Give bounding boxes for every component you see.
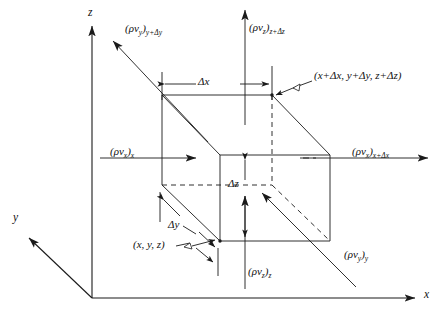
arrow-flux-y [262, 193, 356, 287]
label-flux-y: (ρvy)y [344, 249, 368, 260]
axis-y [29, 238, 92, 298]
label-delta-y: Δy [168, 219, 179, 230]
dim-delta-y [160, 192, 218, 276]
label-delta-z: Δz [228, 178, 239, 189]
label-flux-x: (ρvx)x [110, 146, 134, 157]
label-corner-far: (x+Δx, y+Δy, z+Δz) [314, 70, 401, 81]
cube-front-face [220, 155, 330, 241]
label-flux-z: (ρvz)z [248, 266, 271, 277]
cube-depth-edges [162, 95, 330, 241]
cube-back-face [162, 95, 272, 185]
leader-delta-y [183, 226, 196, 234]
cube-vertex-dots [218, 93, 273, 242]
label-axis-z: z [88, 7, 92, 19]
label-flux-y-plus-dy: (ρvy)y+Δy [125, 23, 162, 34]
leader-corner-near [176, 240, 215, 262]
label-flux-z-plus-dz: (ρvz)z+Δz [249, 22, 285, 33]
label-axis-x: x [424, 289, 429, 301]
label-axis-y: y [13, 212, 18, 224]
figure-canvas: (ρvy)y+Δy (ρvz)z+Δz (ρvx)x (ρvx)x+Δx (ρv… [0, 0, 441, 316]
arrow-flux-y-plus-dy [113, 41, 208, 142]
label-flux-x-plus-dx: (ρvx)x+Δx [352, 146, 389, 157]
label-delta-x: Δx [198, 76, 209, 87]
leader-corner-far [276, 81, 312, 95]
label-corner-near: (x, y, z) [133, 239, 165, 250]
